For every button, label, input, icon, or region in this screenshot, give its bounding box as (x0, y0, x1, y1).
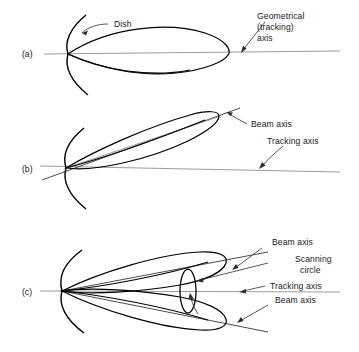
panel-b (40, 108, 340, 209)
beam-center-line-b (66, 117, 218, 168)
label-geometrical-axis-line3: axis (257, 33, 273, 43)
geometrical-tracking-axis-line-a (44, 51, 340, 54)
antenna-beam-figure: (a) (b) (c) Dish Geometrical (tracking) … (0, 0, 359, 352)
tracking-axis-line-c (40, 291, 340, 292)
beam-axis-leader-line-b (229, 114, 247, 124)
dish-leader-arrowhead (82, 31, 88, 36)
label-beam-axis-upper-c: Beam axis (272, 237, 313, 247)
label-beam-axis-b: Beam axis (251, 119, 292, 129)
main-lobe-a (68, 27, 229, 74)
label-scanning-circle-line2: circle (300, 265, 321, 275)
tracking-axis-leader-line-b (262, 146, 283, 166)
beam-axis-lower-leader-line-c (240, 305, 268, 321)
scanning-circle-leader-line-c (200, 263, 268, 280)
label-dish: Dish (114, 19, 132, 29)
beam-axis-lower-leader-arrowhead-c (237, 317, 244, 323)
lower-lobe-c (62, 289, 226, 330)
scanning-circle-leader-arrowhead2-c (189, 293, 195, 299)
scanning-circle-leader-arrowhead-c (196, 278, 204, 283)
label-scanning-circle-line1: Scanning (295, 254, 332, 264)
label-geometrical-axis-line1: Geometrical (257, 11, 304, 21)
panel-id-c: (c) (22, 287, 32, 297)
tracking-axis-leader-line-c (243, 286, 265, 291)
label-tracking-axis-b: Tracking axis (267, 136, 319, 146)
beam-axis-line-upper-c (62, 252, 268, 291)
diagram-canvas: (a) (b) (c) Dish Geometrical (tracking) … (0, 0, 359, 352)
label-geometrical-axis-line2: (tracking) (257, 22, 294, 32)
panel-id-b: (b) (22, 164, 33, 174)
panel-a (44, 15, 340, 95)
beam-axis-upper-leader-arrowhead-c (232, 264, 239, 270)
panel-id-a: (a) (22, 49, 33, 59)
beam-axis-upper-leader-line-c (235, 248, 262, 268)
label-beam-axis-lower-c: Beam axis (275, 295, 316, 305)
label-tracking-axis-c: Tracking axis (270, 281, 322, 291)
lobe-lower-edge-a (68, 54, 190, 73)
